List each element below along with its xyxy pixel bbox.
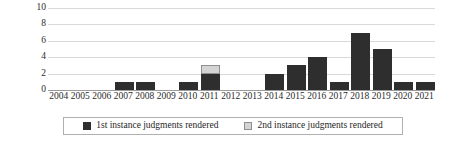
x-tick-label: 2013 xyxy=(242,92,264,102)
y-tick-label: 10 xyxy=(37,3,47,13)
y-tick-label: 0 xyxy=(41,85,46,95)
y-tick-label: 8 xyxy=(41,20,46,30)
bar-group xyxy=(220,8,242,90)
y-tick-label: 2 xyxy=(41,69,46,79)
x-tick-label: 2010 xyxy=(177,92,199,102)
x-tick-label: 2006 xyxy=(91,92,113,102)
y-tick-label: 6 xyxy=(41,36,46,46)
bar-segment xyxy=(373,49,392,90)
bar-group xyxy=(371,8,393,90)
bar-segment xyxy=(330,82,349,90)
plot-area: 0246810 20042005200620072008200920102011… xyxy=(0,0,465,104)
x-tick-label: 2019 xyxy=(371,92,393,102)
bar-group xyxy=(414,8,436,90)
bar-segment xyxy=(287,65,306,90)
legend-label-2nd-instance: 2nd instance judgments rendered xyxy=(257,121,382,131)
x-tick-label: 2009 xyxy=(156,92,178,102)
bar-segment xyxy=(201,65,220,73)
bar-group xyxy=(328,8,350,90)
legend-item-1st-instance: 1st instance judgments rendered xyxy=(83,121,218,131)
x-tick-label: 2014 xyxy=(263,92,285,102)
bar-segment xyxy=(201,74,220,90)
legend-label-1st-instance: 1st instance judgments rendered xyxy=(96,121,218,131)
legend-swatch-light-icon xyxy=(244,122,252,130)
bar-segment xyxy=(115,82,134,90)
bar-segment xyxy=(351,33,370,90)
x-tick-label: 2016 xyxy=(306,92,328,102)
bar-group xyxy=(156,8,178,90)
bar-segment xyxy=(416,82,435,90)
bar-group xyxy=(91,8,113,90)
bar-group xyxy=(263,8,285,90)
x-tick-label: 2017 xyxy=(328,92,350,102)
bars-layer xyxy=(48,8,435,90)
x-axis-tick-labels: 2004200520062007200820092010201120122013… xyxy=(48,92,435,106)
bar-segment xyxy=(308,57,327,90)
y-tick-label: 4 xyxy=(41,52,46,62)
bar-segment xyxy=(179,82,198,90)
bar-group xyxy=(306,8,328,90)
x-tick-label: 2020 xyxy=(392,92,414,102)
bar-segment xyxy=(136,82,155,90)
x-tick-label: 2012 xyxy=(220,92,242,102)
bar-segment xyxy=(394,82,413,90)
bar-group xyxy=(134,8,156,90)
x-tick-label: 2004 xyxy=(48,92,70,102)
bar-group xyxy=(70,8,92,90)
bar-group xyxy=(48,8,70,90)
bar-group xyxy=(177,8,199,90)
x-tick-label: 2005 xyxy=(70,92,92,102)
legend-swatch-dark-icon xyxy=(83,122,91,130)
x-tick-label: 2015 xyxy=(285,92,307,102)
bar-group xyxy=(349,8,371,90)
chart-legend: 1st instance judgments rendered 2nd inst… xyxy=(63,117,403,135)
x-tick-label: 2021 xyxy=(414,92,436,102)
bar-group xyxy=(285,8,307,90)
x-tick-label: 2007 xyxy=(113,92,135,102)
legend-item-2nd-instance: 2nd instance judgments rendered xyxy=(244,121,382,131)
bar-chart: 0246810 20042005200620072008200920102011… xyxy=(0,0,465,143)
bar-group xyxy=(199,8,221,90)
bar-segment xyxy=(265,74,284,90)
x-tick-label: 2011 xyxy=(199,92,221,102)
bar-group xyxy=(113,8,135,90)
y-axis-tick-labels: 0246810 xyxy=(24,8,46,90)
bar-group xyxy=(242,8,264,90)
x-tick-label: 2018 xyxy=(349,92,371,102)
x-tick-label: 2008 xyxy=(134,92,156,102)
bar-group xyxy=(392,8,414,90)
